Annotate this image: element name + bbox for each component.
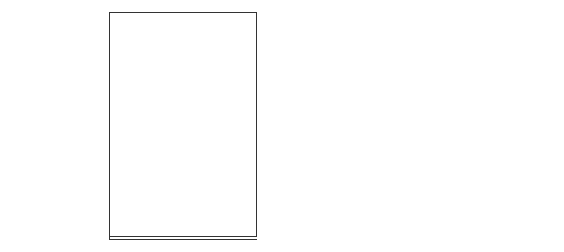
diagram-frame-container xyxy=(109,12,257,238)
